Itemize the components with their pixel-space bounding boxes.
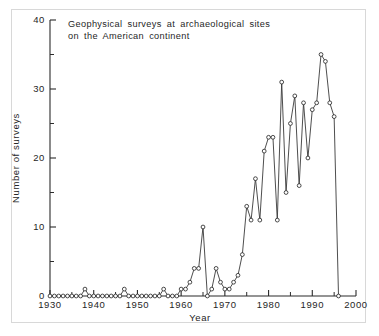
x-tick-label: 1990	[301, 299, 325, 310]
data-point	[114, 294, 118, 298]
data-point	[219, 280, 223, 284]
data-point	[109, 294, 113, 298]
x-tick-label: 1940	[82, 299, 106, 310]
data-point	[166, 294, 170, 298]
y-tick-label: 10	[33, 221, 45, 232]
data-point	[92, 294, 96, 298]
data-point	[122, 287, 126, 291]
data-point	[280, 80, 284, 84]
data-point	[223, 287, 227, 291]
y-axis-ticks	[50, 20, 56, 296]
data-point	[175, 294, 179, 298]
data-point	[315, 101, 319, 105]
data-point	[324, 60, 328, 64]
data-point	[249, 218, 253, 222]
data-point	[232, 280, 236, 284]
data-point	[328, 101, 332, 105]
data-point	[254, 177, 258, 181]
data-point	[306, 156, 310, 160]
data-point	[258, 218, 262, 222]
data-point	[131, 294, 135, 298]
data-point	[70, 294, 74, 298]
data-point	[153, 294, 157, 298]
y-tick-label: 20	[33, 152, 45, 163]
data-point	[201, 225, 205, 229]
data-point	[337, 294, 341, 298]
y-tick-label: 40	[33, 14, 45, 25]
data-point	[245, 204, 249, 208]
data-point-markers	[48, 53, 340, 298]
data-point	[52, 294, 56, 298]
data-point	[293, 94, 297, 98]
data-point	[275, 218, 279, 222]
data-point	[74, 294, 78, 298]
data-point	[236, 273, 240, 277]
data-point	[66, 294, 70, 298]
data-point	[61, 294, 65, 298]
y-axis-title: Number of surveys	[10, 113, 21, 203]
data-point	[118, 294, 122, 298]
data-point	[57, 294, 61, 298]
data-point	[83, 287, 87, 291]
chart-title-line-2: on the American continent	[68, 31, 190, 41]
data-point	[144, 294, 148, 298]
data-point	[136, 294, 140, 298]
data-point	[179, 287, 183, 291]
data-point	[284, 191, 288, 195]
data-point	[332, 115, 336, 119]
x-tick-label: 1950	[126, 299, 150, 310]
data-point	[271, 135, 275, 139]
data-point	[105, 294, 109, 298]
data-point	[214, 267, 218, 271]
data-point	[289, 122, 293, 126]
data-point	[188, 280, 192, 284]
data-point	[240, 253, 244, 257]
x-axis-ticks	[50, 290, 356, 296]
y-axis-tick-labels: 010203040	[33, 14, 45, 301]
data-point	[184, 287, 188, 291]
data-point	[171, 294, 175, 298]
x-tick-label: 1930	[38, 299, 62, 310]
data-point	[302, 101, 306, 105]
data-point	[319, 53, 323, 57]
data-point	[262, 149, 266, 153]
y-tick-label: 30	[33, 83, 45, 94]
data-point	[227, 287, 231, 291]
data-point	[267, 135, 271, 139]
data-point	[162, 287, 166, 291]
x-tick-label: 2000	[344, 299, 368, 310]
data-point	[310, 108, 314, 112]
x-tick-label: 1980	[257, 299, 281, 310]
data-point	[48, 294, 52, 298]
data-point	[197, 267, 201, 271]
line-chart: 010203040 193019401950196019701980199020…	[0, 0, 379, 336]
x-tick-label: 1970	[213, 299, 237, 310]
data-point	[149, 294, 153, 298]
data-point	[297, 184, 301, 188]
data-point	[96, 294, 100, 298]
chart-title-line-1: Geophysical surveys at archaeological si…	[68, 19, 270, 29]
data-series-line	[50, 55, 339, 297]
data-point	[205, 294, 209, 298]
data-point	[210, 287, 214, 291]
x-tick-label: 1960	[169, 299, 193, 310]
data-point	[157, 294, 161, 298]
data-point	[127, 294, 131, 298]
data-point	[101, 294, 105, 298]
data-point	[79, 294, 83, 298]
x-axis-tick-labels: 19301940195019601970198019902000	[38, 299, 368, 310]
data-point	[140, 294, 144, 298]
data-point	[192, 267, 196, 271]
x-axis-title: Year	[189, 312, 211, 323]
data-point	[87, 294, 91, 298]
figure-container: 010203040 193019401950196019701980199020…	[0, 0, 379, 336]
